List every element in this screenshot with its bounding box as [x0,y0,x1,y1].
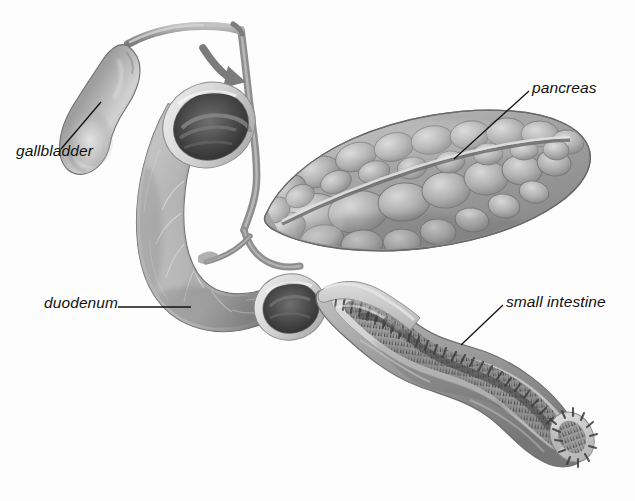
label-duodenum: duodenum [44,294,118,312]
anatomical-figure: gallbladder duodenum pancreas small inte… [0,0,635,501]
label-gallbladder: gallbladder [16,142,93,160]
illustration-canvas [0,0,635,501]
label-small-intestine: small intestine [506,293,606,311]
label-pancreas: pancreas [532,79,597,97]
